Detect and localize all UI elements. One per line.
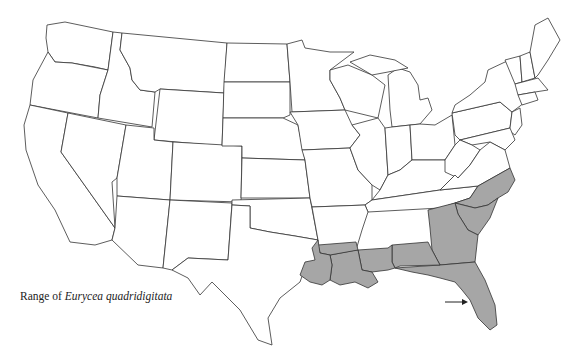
state-maine bbox=[530, 18, 560, 78]
state-montana bbox=[120, 33, 227, 93]
state-wyoming bbox=[154, 89, 224, 146]
state-north-dakota bbox=[224, 43, 290, 82]
state-michigan-lower bbox=[388, 68, 432, 127]
state-florida bbox=[395, 262, 497, 330]
caption-prefix: Range of bbox=[20, 290, 65, 302]
state-arizona bbox=[112, 196, 170, 268]
state-mississippi bbox=[358, 245, 395, 272]
state-colorado bbox=[170, 142, 242, 202]
state-south-dakota bbox=[223, 82, 290, 118]
arrow-head bbox=[462, 299, 468, 305]
caption-species: Eurycea quadridigitata bbox=[65, 290, 173, 302]
state-kansas bbox=[241, 158, 310, 198]
map-caption: Range of Eurycea quadridigitata bbox=[20, 290, 172, 302]
us-range-map bbox=[0, 0, 588, 357]
